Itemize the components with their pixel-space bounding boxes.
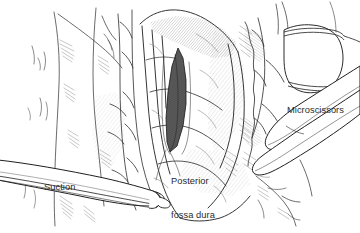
- label-suction: Suction: [44, 182, 75, 193]
- surgical-illustration-figure: Posterior fossa dura Microscissors Sucti…: [0, 0, 360, 233]
- label-posterior-fossa-dura: Posterior fossa dura: [171, 154, 215, 233]
- label-posterior-fossa-dura-line2: fossa dura: [171, 210, 215, 221]
- label-microscissors: Microscissors: [287, 105, 344, 116]
- label-posterior-fossa-dura-line1: Posterior: [171, 176, 215, 187]
